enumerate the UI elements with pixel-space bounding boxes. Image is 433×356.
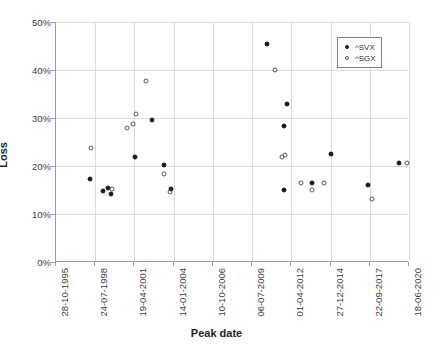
data-point-svx bbox=[282, 123, 287, 128]
scatter-chart: Loss 0%10%20%30%40%50%28-10-199524-07-19… bbox=[0, 0, 433, 356]
gridline-vertical bbox=[174, 22, 175, 261]
data-point-svx bbox=[162, 163, 167, 168]
legend-item-sgx: ^SGX bbox=[342, 53, 376, 63]
y-axis-tick-label: 30% bbox=[7, 113, 51, 124]
data-point-sgx bbox=[309, 187, 314, 192]
x-axis-tick-label: 19-04-2001 bbox=[137, 268, 148, 317]
gridline-vertical bbox=[252, 22, 253, 261]
data-point-sgx bbox=[124, 125, 129, 130]
data-point-svx bbox=[150, 117, 155, 122]
x-axis-title: Peak date bbox=[0, 327, 433, 339]
x-axis-tick bbox=[369, 262, 370, 266]
y-axis-tick bbox=[51, 22, 55, 23]
x-axis-tick bbox=[55, 262, 56, 266]
gridline-horizontal bbox=[56, 22, 408, 23]
x-axis-tick bbox=[251, 262, 252, 266]
x-axis-tick-label: 14-01-2004 bbox=[177, 268, 188, 317]
y-axis-tick-label: 20% bbox=[7, 161, 51, 172]
chart-legend: ^SVX ^SGX bbox=[337, 37, 382, 68]
data-point-sgx bbox=[370, 197, 375, 202]
y-axis-tick bbox=[51, 166, 55, 167]
data-point-svx bbox=[282, 188, 287, 193]
y-axis-tick-label: 50% bbox=[7, 17, 51, 28]
x-axis-tick bbox=[173, 262, 174, 266]
data-point-svx bbox=[133, 154, 138, 159]
data-point-sgx bbox=[283, 153, 288, 158]
gridline-horizontal bbox=[56, 70, 408, 71]
open-circle-icon bbox=[342, 56, 352, 60]
data-point-sgx bbox=[298, 181, 303, 186]
gridline-horizontal bbox=[56, 166, 408, 167]
data-point-svx bbox=[310, 181, 315, 186]
x-axis-tick bbox=[290, 262, 291, 266]
gridline-horizontal bbox=[56, 118, 408, 119]
gridline-vertical bbox=[95, 22, 96, 261]
gridline-vertical bbox=[331, 22, 332, 261]
x-axis-tick bbox=[94, 262, 95, 266]
legend-label-sgx: ^SGX bbox=[355, 54, 376, 63]
x-axis-tick bbox=[212, 262, 213, 266]
data-point-sgx bbox=[110, 186, 115, 191]
gridline-vertical bbox=[291, 22, 292, 261]
x-axis-tick bbox=[133, 262, 134, 266]
figure-caption bbox=[44, 342, 374, 354]
data-point-sgx bbox=[162, 171, 167, 176]
gridline-horizontal bbox=[56, 214, 408, 215]
data-point-sgx bbox=[144, 78, 149, 83]
data-point-svx bbox=[366, 182, 371, 187]
data-point-sgx bbox=[405, 161, 410, 166]
gridline-vertical bbox=[409, 22, 410, 261]
y-axis-tick bbox=[51, 214, 55, 215]
data-point-sgx bbox=[167, 190, 172, 195]
x-axis-tick-label: 06-07-2009 bbox=[255, 268, 266, 317]
x-axis-tick-label: 01-04-2012 bbox=[294, 268, 305, 317]
x-axis-tick bbox=[330, 262, 331, 266]
y-axis-tick-label: 0% bbox=[7, 257, 51, 268]
y-axis-tick bbox=[51, 118, 55, 119]
gridline-vertical bbox=[134, 22, 135, 261]
filled-circle-icon bbox=[342, 45, 352, 49]
x-axis-tick-label: 24-07-1998 bbox=[98, 268, 109, 317]
data-point-svx bbox=[264, 41, 269, 46]
data-point-svx bbox=[285, 102, 290, 107]
data-point-svx bbox=[108, 191, 113, 196]
data-point-svx bbox=[88, 176, 93, 181]
x-axis-tick-label: 22-09-2017 bbox=[373, 268, 384, 317]
data-point-sgx bbox=[321, 180, 326, 185]
x-axis-tick-label: 18-06-2020 bbox=[412, 268, 423, 317]
y-axis-tick bbox=[51, 70, 55, 71]
data-point-sgx bbox=[273, 68, 278, 73]
gridline-vertical bbox=[213, 22, 214, 261]
data-point-sgx bbox=[134, 112, 139, 117]
x-axis-tick-label: 10-10-2006 bbox=[216, 268, 227, 317]
y-axis-tick-label: 10% bbox=[7, 209, 51, 220]
data-point-svx bbox=[328, 151, 333, 156]
data-point-sgx bbox=[88, 145, 93, 150]
y-axis-tick-label: 40% bbox=[7, 65, 51, 76]
data-point-sgx bbox=[131, 121, 136, 126]
x-axis-tick-label: 27-12-2014 bbox=[334, 268, 345, 317]
x-axis-tick bbox=[408, 262, 409, 266]
data-point-svx bbox=[100, 189, 105, 194]
legend-label-svx: ^SVX bbox=[355, 43, 375, 52]
data-point-svx bbox=[397, 160, 402, 165]
legend-item-svx: ^SVX bbox=[342, 42, 376, 52]
x-axis-tick-label: 28-10-1995 bbox=[59, 268, 70, 317]
